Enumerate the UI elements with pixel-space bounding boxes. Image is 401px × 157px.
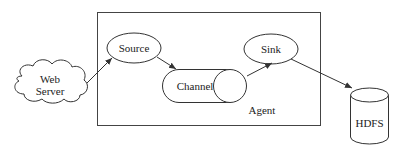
hdfs-label: HDFS [355, 117, 383, 129]
web-server-node: Web Server [15, 60, 88, 103]
edge-webserver-to-source [87, 58, 112, 83]
sink-node: Sink [244, 34, 298, 64]
channel-node: Channel [163, 70, 247, 103]
source-node: Source [107, 33, 161, 63]
edge-channel-to-sink [247, 63, 272, 76]
sink-label: Sink [261, 43, 282, 55]
web-server-label-line1: Web [40, 73, 60, 85]
web-server-label-line2: Server [36, 85, 65, 97]
edge-source-to-channel [157, 57, 176, 69]
edge-sink-to-hdfs [291, 59, 352, 88]
source-label: Source [119, 42, 150, 54]
channel-label: Channel [177, 80, 214, 92]
hdfs-node: HDFS [351, 88, 389, 144]
flume-architecture-diagram: Agent Web Server Source Channel Sink HDF… [0, 0, 401, 157]
agent-label: Agent [249, 104, 276, 116]
